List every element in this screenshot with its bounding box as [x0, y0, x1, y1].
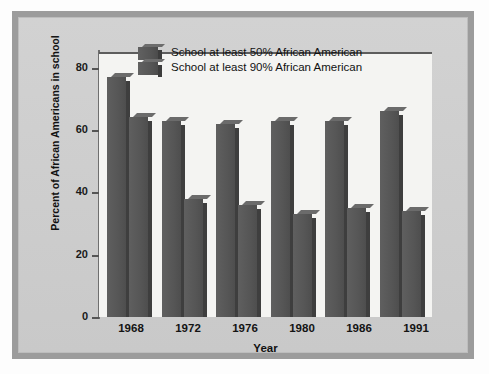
y-axis-tick-label: 80 — [42, 61, 88, 73]
bar-slot — [293, 54, 315, 317]
x-axis-tick-label: 1972 — [164, 322, 212, 334]
y-axis-tick-labels: 020406080 — [36, 50, 88, 319]
bar-group — [162, 54, 206, 317]
bar — [347, 208, 366, 317]
bar-slot — [347, 54, 369, 317]
bar-slot — [402, 54, 424, 317]
bar — [129, 117, 148, 317]
bar — [271, 121, 290, 317]
bar — [162, 121, 181, 317]
bar — [293, 214, 312, 317]
bar-slot — [107, 54, 129, 317]
bar-group — [107, 54, 151, 317]
bar-slot — [162, 54, 184, 317]
bar — [216, 124, 235, 317]
bar-slot — [380, 54, 402, 317]
bar-slot — [271, 54, 293, 317]
y-axis-tick-label: 0 — [42, 310, 88, 322]
chart-legend: School at least 50% African American Sch… — [138, 45, 362, 79]
x-axis-tick-label: 1976 — [221, 322, 269, 334]
y-axis-tick-label: 20 — [42, 248, 88, 260]
legend-swatches — [138, 47, 164, 79]
bar-group — [271, 54, 315, 317]
y-axis-tick-label: 40 — [42, 185, 88, 197]
bar-slot — [238, 54, 260, 317]
y-axis-tick — [92, 255, 99, 257]
legend-swatch-series-2 — [138, 62, 158, 75]
bar-slot — [216, 54, 238, 317]
bar-slot — [129, 54, 151, 317]
bar-slot — [184, 54, 206, 317]
y-axis-tick — [92, 130, 99, 132]
x-axis-tick-labels: 196819721976198019861991 — [107, 322, 440, 334]
chart-canvas: Percent of African Americans in school 0… — [18, 17, 468, 353]
plot-inner — [99, 54, 432, 317]
y-axis-tick-label: 60 — [42, 123, 88, 135]
y-axis-tick — [92, 192, 99, 194]
bar — [402, 211, 421, 317]
x-axis-tick-label: 1986 — [335, 322, 383, 334]
y-axis-tick — [92, 317, 99, 319]
bar-group — [325, 54, 369, 317]
bar — [107, 77, 126, 317]
legend-label-series-1: School at least 50% African American — [171, 45, 362, 60]
legend-label-series-2: School at least 90% African American — [171, 60, 362, 75]
x-axis-tick-label: 1980 — [278, 322, 326, 334]
bar — [380, 111, 399, 317]
bar-group — [216, 54, 260, 317]
bar — [184, 199, 203, 317]
bar-slot — [325, 54, 347, 317]
legend-label-list: School at least 50% African American Sch… — [171, 45, 362, 75]
figure-frame: Percent of African Americans in school 0… — [12, 11, 474, 359]
x-axis-tick-label: 1991 — [392, 322, 440, 334]
x-axis-title: Year — [99, 342, 432, 354]
bar-groups — [107, 54, 424, 317]
x-axis-tick-label: 1968 — [107, 322, 155, 334]
bar-group — [380, 54, 424, 317]
bar — [325, 121, 344, 317]
bar — [238, 205, 257, 317]
plot-area — [99, 52, 432, 317]
figure-page: Percent of African Americans in school 0… — [0, 0, 489, 374]
y-axis-tick — [92, 68, 99, 70]
